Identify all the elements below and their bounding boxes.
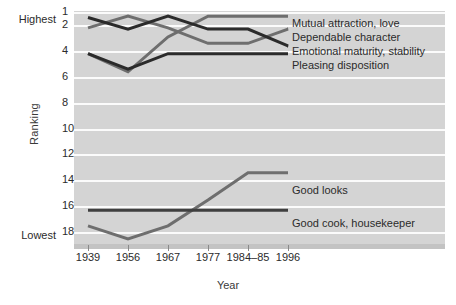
- ranking-line-chart: Highest Lowest 124681012141618 Ranking 1…: [0, 0, 456, 305]
- series-label: Mutual attraction, love: [292, 18, 400, 29]
- series-label: Dependable character: [292, 32, 400, 43]
- series-line: [88, 16, 288, 72]
- series-label: Good looks: [292, 185, 348, 196]
- series-label: Pleasing disposition: [292, 60, 389, 71]
- series-line: [88, 54, 288, 70]
- series-line: [88, 16, 288, 43]
- series-line: [88, 173, 288, 239]
- series-label: Emotional maturity, stability: [292, 46, 425, 57]
- series-label: Good cook, housekeeper: [292, 218, 415, 229]
